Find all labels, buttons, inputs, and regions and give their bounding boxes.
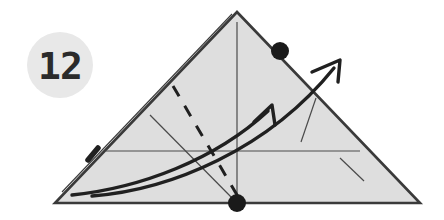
figure-container: 12 (0, 0, 444, 220)
figure-number-label: 12 (38, 44, 82, 88)
base-vertex-dot (228, 194, 246, 212)
upper-right-vertex-dot (271, 42, 289, 60)
geometry-figure: 12 (0, 0, 444, 220)
